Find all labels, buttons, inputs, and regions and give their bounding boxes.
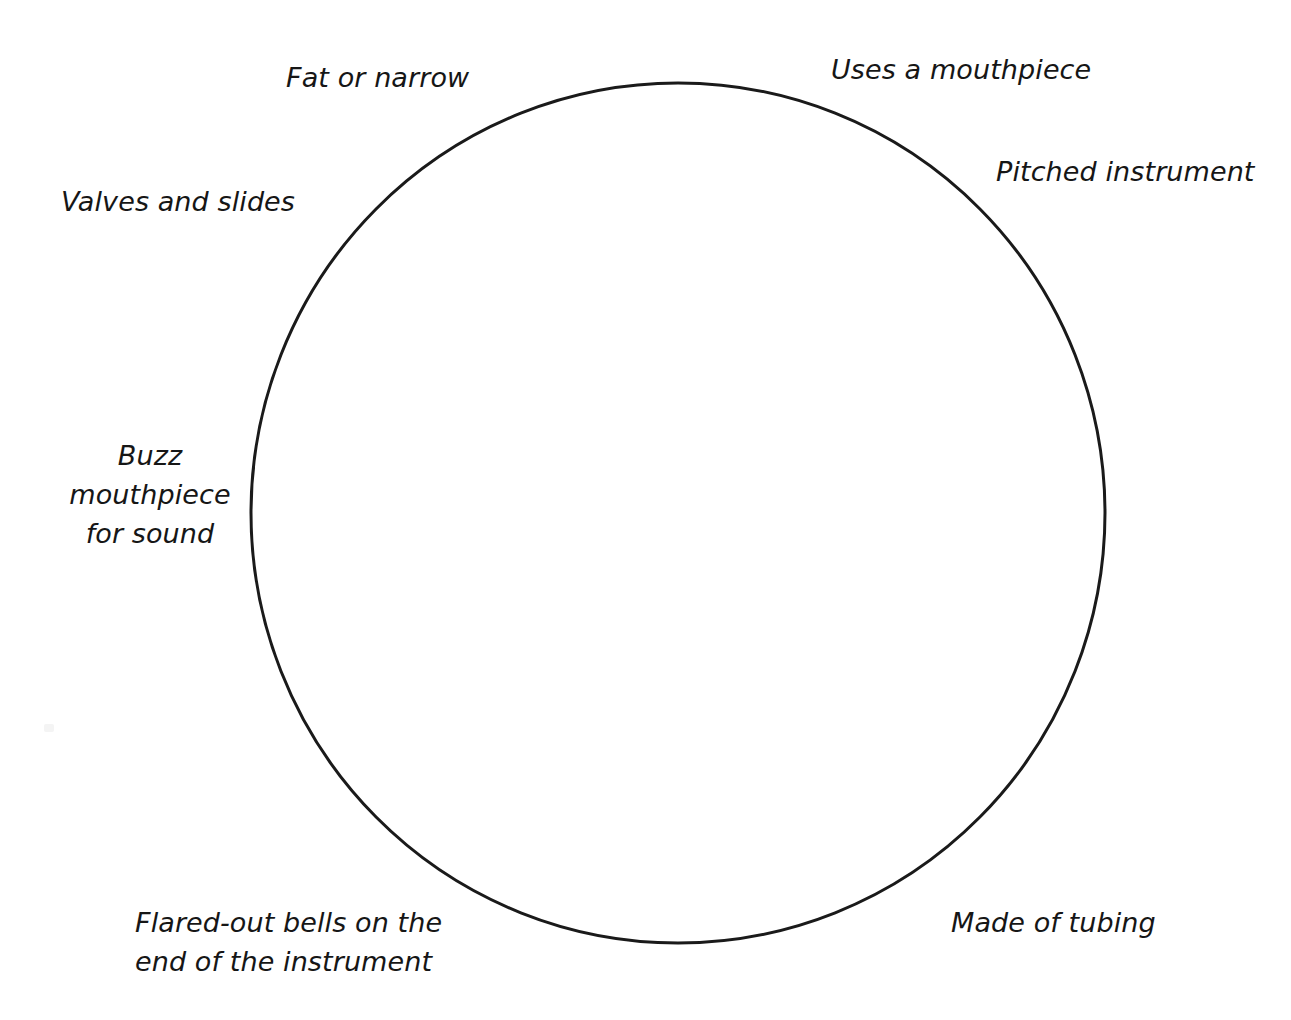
scan-artifact-speck [44,724,54,732]
label-made-of-tubing: Made of tubing [951,903,1156,942]
label-flared-out-bells-on-the-end-of-the-instrument: Flared-out bells on the end of the instr… [135,903,445,981]
label-pitched-instrument: Pitched instrument [996,152,1255,191]
label-buzz-mouthpiece-for-sound: Buzz mouthpiece for sound [57,436,243,553]
label-uses-a-mouthpiece: Uses a mouthpiece [831,50,1091,89]
diagram-canvas: Fat or narrow Uses a mouthpiece Pitched … [0,0,1291,1020]
circle-outline [251,83,1105,943]
label-valves-and-slides: Valves and slides [61,182,295,221]
label-fat-or-narrow: Fat or narrow [286,58,469,97]
